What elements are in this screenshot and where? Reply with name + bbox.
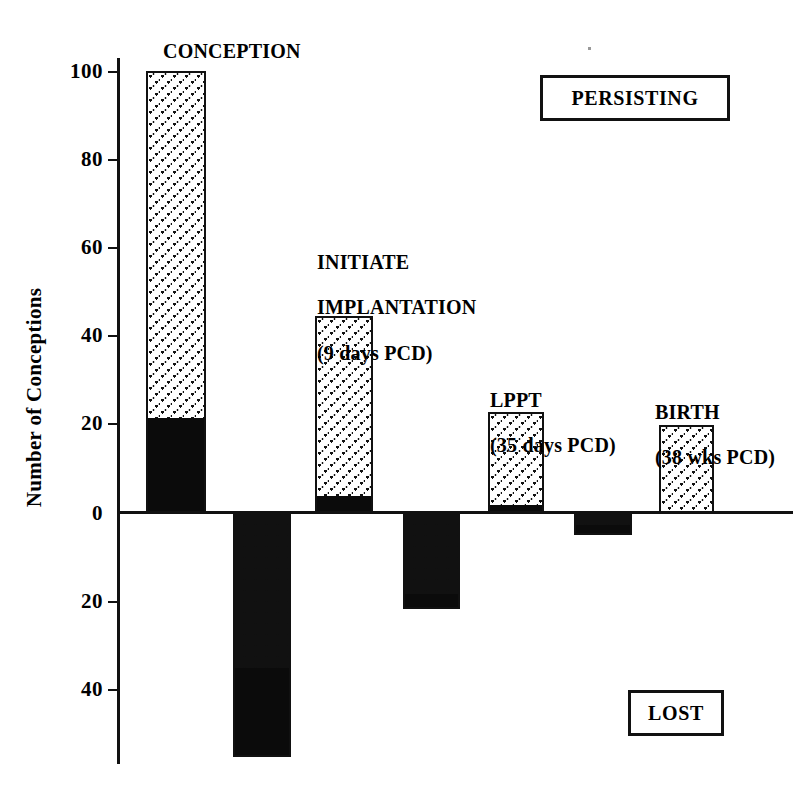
bar-conception[interactable] [146, 71, 206, 513]
y-tick-80 [108, 159, 118, 161]
y-tick-100 [108, 71, 118, 73]
bar-label-implantation-line1: INITIATE [317, 251, 476, 274]
y-tick-label-0: 0 [92, 501, 103, 526]
bar-label-lppt-line1: LPPT [490, 389, 616, 412]
y-tick-label-neg40: 40 [81, 677, 103, 702]
bar-label-lppt: LPPT (35 days PCD) [490, 366, 616, 480]
bar-label-lppt-line2: (35 days PCD) [490, 434, 616, 457]
y-tick-neg20 [108, 601, 118, 603]
bar-lost-implantation-lost-segment [405, 516, 458, 594]
bar-label-birth: BIRTH (38 wks PCD) [655, 378, 775, 492]
bar-lost-lppt-solid-segment [576, 525, 630, 533]
bar-label-birth-line2: (38 wks PCD) [655, 446, 775, 469]
y-axis-line [117, 58, 120, 764]
chart-canvas: Number of Conceptions 100 80 60 40 20 0 … [0, 0, 811, 790]
bar-lost-implantation[interactable] [403, 514, 460, 609]
bar-label-conception: CONCEPTION [163, 40, 301, 63]
y-tick-label-20: 20 [81, 411, 103, 436]
legend-persisting[interactable]: PERSISTING [540, 75, 730, 121]
y-tick-60 [108, 247, 118, 249]
legend-lost[interactable]: LOST [628, 690, 724, 736]
bar-lost-lppt[interactable] [574, 514, 632, 535]
y-tick-label-100: 100 [70, 59, 103, 84]
y-tick-label-60: 60 [81, 235, 103, 260]
bar-label-implantation-line3: (9 days PCD) [317, 342, 476, 365]
bar-conception-solid-segment [148, 418, 204, 511]
y-tick-label-neg20: 20 [81, 589, 103, 614]
bar-lost-conception[interactable] [233, 514, 291, 757]
y-tick-neg40 [108, 689, 118, 691]
bar-implantation-solid-segment [317, 496, 371, 511]
bar-label-implantation-line2: IMPLANTATION [317, 296, 476, 319]
bar-lppt-solid-segment [490, 505, 542, 511]
y-axis-title: Number of Conceptions [22, 268, 47, 528]
y-tick-20 [108, 423, 118, 425]
bar-label-implantation: INITIATE IMPLANTATION (9 days PCD) [317, 228, 476, 388]
bar-lost-implantation-solid-segment [405, 594, 458, 607]
y-tick-label-40: 40 [81, 323, 103, 348]
bar-lost-lppt-lost-segment [576, 516, 630, 525]
bar-conception-persisting-segment [148, 73, 204, 418]
y-tick-label-80: 80 [81, 147, 103, 172]
legend-lost-label: LOST [648, 702, 704, 725]
bar-label-birth-line1: BIRTH [655, 401, 775, 424]
y-tick-40 [108, 335, 118, 337]
legend-persisting-label: PERSISTING [571, 87, 698, 110]
bar-lost-conception-lost-segment [235, 516, 289, 668]
stray-speck [588, 47, 591, 50]
bar-lost-conception-solid-segment [235, 668, 289, 755]
